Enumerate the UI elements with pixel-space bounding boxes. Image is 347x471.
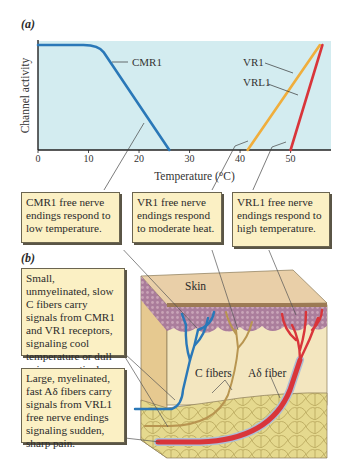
skin-surface [141,270,327,305]
annotation-vr1: VR1 [243,56,264,68]
plot-background [38,41,331,150]
annotation-cmr1: CMR1 [132,56,162,68]
annotation-vrl1: VRL1 [243,76,271,88]
callout-a-delta-fibers: Large, myelinated, fast Aδ fibers carry … [21,368,125,443]
y-axis-title: Channel activity [19,57,32,133]
channel-activity-chart: 01020304050Temperature (°C)Channel activ… [0,0,347,190]
skin-label: Skin [185,280,206,292]
callout-cmr1: CMR1 free nerve endings respond to low t… [21,192,120,243]
x-tick-label: 30 [185,153,195,164]
x-tick-label: 40 [235,153,245,164]
x-axis-title: Temperature (°C) [154,170,235,183]
callout-vr1: VR1 free nerve endings respond to modera… [132,192,222,243]
callout-vrl1: VRL1 free nerve endings respond to high … [232,192,330,247]
x-tick-label: 10 [84,153,94,164]
a-delta-fiber-label: Aδ fiber [248,367,286,379]
x-tick-label: 0 [36,153,41,164]
callout-c-fibers: Small, unmyelinated, slow C fibers carry… [21,268,125,356]
x-tick-label: 50 [286,153,296,164]
x-tick-label: 20 [134,153,144,164]
c-fibers-label: C fibers [195,367,232,379]
